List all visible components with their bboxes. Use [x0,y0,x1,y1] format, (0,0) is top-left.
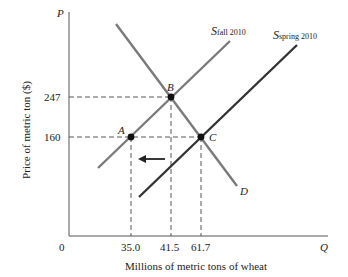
y-axis-symbol: P [57,8,64,19]
supply-spring-label: Sspring 2010 [273,29,317,41]
x-axis-symbol: Q [320,242,328,253]
point-a-label: A [118,125,125,136]
supply-fall-label: Sfall 2010 [211,25,246,37]
point-a [128,134,135,141]
supply-spring-subscript: spring 2010 [279,32,317,41]
supply-spring-2010-curve [139,45,297,197]
point-b [168,94,175,101]
point-b-label: B [167,82,174,93]
point-c [198,134,205,141]
point-c-label: C [209,132,216,143]
y-tick-160: 160 [44,132,61,143]
x-axis-title: Millions of metric tons of wheat [125,261,267,272]
x-tick-61-7: 61.7 [191,242,210,253]
x-tick-35: 35.0 [121,242,140,253]
supply-fall-subscript: fall 2010 [217,28,246,37]
origin-label: 0 [59,242,65,253]
demand-label: D [240,186,248,197]
guide-lines [69,97,201,236]
shift-arrow-icon [138,155,165,163]
x-tick-41-5: 41.5 [160,242,179,253]
y-axis-title: Price of metric ton ($) [20,81,32,179]
y-tick-247: 247 [44,92,61,103]
